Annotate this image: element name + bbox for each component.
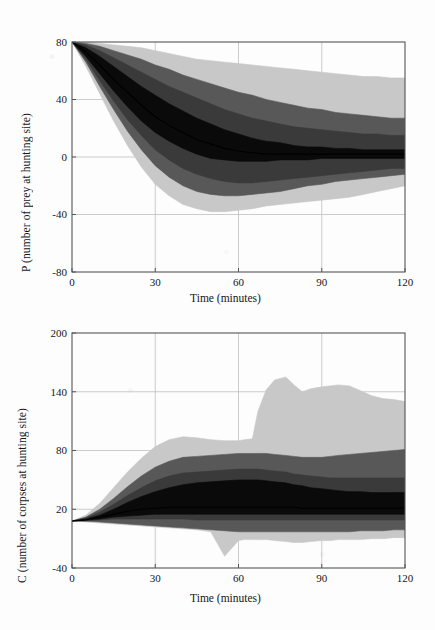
figure-page: -80-40040800306090120 P (number of prey … xyxy=(0,0,435,630)
prey-y-axis-label: P (number of prey at hunting site) xyxy=(20,48,32,272)
corpses-x-axis-label: Time (minutes) xyxy=(8,592,435,604)
x-tick-label: 90 xyxy=(316,276,328,288)
x-tick-label: 60 xyxy=(233,276,245,288)
y-tick-label: 200 xyxy=(51,327,68,339)
y-tick-label: 0 xyxy=(62,151,68,163)
x-tick-label: 0 xyxy=(69,276,75,288)
y-tick-label: 20 xyxy=(56,503,68,515)
prey-panel: -80-40040800306090120 P (number of prey … xyxy=(0,0,435,315)
x-tick-label: 60 xyxy=(233,572,245,584)
y-tick-label: 80 xyxy=(56,444,68,456)
x-tick-label: 120 xyxy=(397,572,414,584)
prey-x-axis-label: Time (minutes) xyxy=(8,292,435,304)
corpses-panel: -4020801402000306090120 C (number of cor… xyxy=(0,315,435,630)
x-tick-label: 90 xyxy=(316,572,328,584)
corpses-plot-area: -4020801402000306090120 xyxy=(0,315,435,630)
y-tick-label: 40 xyxy=(56,93,68,105)
x-tick-label: 30 xyxy=(150,572,162,584)
prey-plot-area: -80-40040800306090120 xyxy=(0,0,435,315)
y-tick-label: -40 xyxy=(52,562,67,574)
x-tick-label: 30 xyxy=(150,276,162,288)
y-tick-label: 80 xyxy=(56,36,68,48)
x-tick-label: 120 xyxy=(397,276,414,288)
corpses-y-axis-label: C (number of corpses at hunting site) xyxy=(16,335,28,583)
y-tick-label: -80 xyxy=(52,266,67,278)
y-tick-label: -40 xyxy=(52,208,67,220)
x-tick-label: 0 xyxy=(69,572,75,584)
y-tick-label: 140 xyxy=(51,386,68,398)
